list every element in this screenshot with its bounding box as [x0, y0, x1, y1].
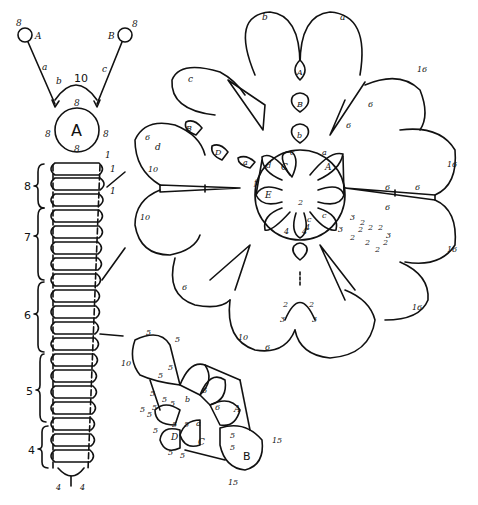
section-6-label: 6 [24, 309, 31, 322]
chain-b-count: 10 [74, 72, 88, 85]
cord: 8 A B 8 a c b 10 A 8 8 8 8 1 1 1 [16, 18, 138, 492]
center-label: 4 [304, 223, 310, 232]
petal [365, 79, 425, 130]
bottom-count: 2 [308, 300, 314, 309]
section-7-label: 7 [24, 231, 31, 244]
brace-4 [38, 426, 48, 468]
motif-count: 15 [272, 436, 282, 445]
chain-ring-label: a [243, 158, 248, 167]
center-label: c [307, 215, 312, 224]
chain-a-label: a [42, 62, 47, 72]
petal-count: 6 [368, 100, 373, 109]
center-label: d [266, 161, 271, 170]
bottom-count: 3 [312, 315, 317, 324]
motif-count: 5 [153, 426, 158, 435]
brace-6 [34, 282, 44, 352]
motif-count: 5 [172, 420, 177, 429]
motif-count: 5 [175, 335, 180, 344]
side-count: 2 [349, 233, 355, 242]
bottom-count: 2 [282, 300, 288, 309]
center-label: 2 [297, 198, 303, 207]
cord-count: 1 [105, 150, 111, 160]
side-count: 2 [377, 223, 383, 232]
rosette: A C E a c d f 2 4 4 4 c c A B b B D a b … [135, 12, 457, 358]
motif-count: 15 [228, 478, 238, 487]
chain-ring-label: b [297, 131, 302, 140]
motif-count: 5 [140, 405, 145, 414]
petal-count: 10 [238, 333, 248, 342]
motif-count: 5 [230, 443, 235, 452]
petal-label: c [188, 74, 193, 84]
double-arrow-icon [100, 334, 123, 336]
brace-8 [34, 164, 44, 208]
section-4-label: 4 [28, 444, 35, 457]
motif-ring-label: B [243, 450, 251, 463]
petal-count: 16 [412, 303, 422, 312]
center-label: a [322, 148, 327, 157]
petal [295, 290, 375, 358]
start-ring-a [18, 28, 32, 42]
motif-ring-label: A [233, 404, 241, 414]
side-count: 2 [367, 223, 373, 232]
petal-count: 16 [447, 160, 457, 169]
bottom-ring [293, 243, 307, 260]
tatting-diagram: 8 A B 8 a c b 10 A 8 8 8 8 1 1 1 [0, 0, 478, 505]
big-ring-count: 8 [45, 129, 51, 139]
motif-count: 5 [150, 389, 155, 398]
center-label: 4 [283, 227, 289, 236]
side-count: 2 [364, 238, 370, 247]
motif-count: 5 [152, 403, 157, 412]
big-ring-count: 8 [74, 98, 80, 108]
petal-count: 16 [417, 65, 427, 74]
big-ring-count: 8 [74, 144, 80, 154]
motif-ring-b [220, 426, 262, 470]
motif-ring-label: C [198, 437, 205, 447]
cord-count: 1 [110, 186, 116, 196]
big-ring-label: A [71, 121, 82, 140]
petal-count: 6 [145, 133, 150, 142]
petal-count: 6 [346, 121, 351, 130]
petal-label: d [155, 142, 161, 152]
center-label: c [290, 148, 295, 157]
motif-count: 6 [215, 403, 220, 412]
brace-5 [36, 354, 46, 422]
motif: A B C D a b 5 5 5 5 10 5 5 6 6 5 5 5 5 5… [121, 328, 282, 487]
brace-7 [34, 208, 44, 280]
double-arrow-icon [107, 172, 125, 187]
motif-ring-label: b [185, 395, 190, 404]
ring-b-count: 8 [132, 19, 138, 29]
center-ring-a: A [324, 162, 332, 172]
cord-count: 4 [55, 483, 61, 492]
section-8-label: 8 [24, 180, 31, 193]
petal-count: 6 [265, 343, 270, 352]
motif-ring-label: a [196, 419, 201, 428]
motif-count: 5 [180, 451, 185, 460]
center-ring-e: E [264, 190, 272, 200]
center-ring-c: C [281, 162, 288, 172]
petal-count: 6 [385, 203, 390, 212]
motif-count: 5 [162, 395, 167, 404]
side-count: 2 [374, 245, 380, 254]
chain-ring-label: B [185, 124, 192, 133]
motif-count: 5 [146, 328, 151, 337]
motif-count: 6 [202, 386, 207, 395]
motif-count: 5 [158, 371, 163, 380]
chain-ring-label: A [296, 68, 303, 77]
motif-count: 10 [121, 359, 131, 368]
center-label: c [322, 211, 327, 220]
big-ring-count: 8 [103, 129, 109, 139]
petal [135, 190, 200, 255]
motif-count: 5 [168, 363, 173, 372]
petal [245, 12, 300, 75]
ring-a-label: A [34, 31, 42, 41]
petal-label: b [262, 12, 268, 22]
petal-count: 6 [385, 183, 390, 192]
motif-ring-label: D [170, 432, 178, 442]
petal-count: 10 [140, 213, 150, 222]
cord-count: 1 [110, 164, 116, 174]
petal-count: 6 [182, 283, 187, 292]
chain-c-label: c [102, 64, 107, 74]
petal-count: 10 [148, 165, 158, 174]
motif-count: 5 [168, 448, 173, 457]
chain-ring-label: B [296, 100, 303, 109]
